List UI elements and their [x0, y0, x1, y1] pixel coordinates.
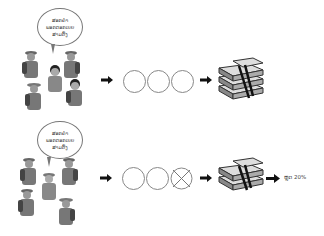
right-arrow-icon [266, 174, 280, 183]
circle [171, 70, 194, 93]
bubble-tail [47, 157, 51, 167]
bubble-line: ພອກດອກເບຍ [46, 24, 74, 31]
speech-bubble: ສອກຄຳ ພອກດອກເບຍ ສາມຕົ້ງ [37, 121, 83, 159]
bubble-line: ພອກດອກເບຍ [46, 137, 74, 144]
worker-icon [66, 78, 84, 106]
worker-icon [18, 188, 36, 216]
circle [146, 167, 169, 190]
circle [123, 70, 146, 93]
right-arrow-icon [200, 174, 212, 182]
money-stack-icon [217, 56, 267, 100]
worker-icon [46, 64, 64, 92]
crossed-circle-icon [170, 167, 193, 190]
right-arrow-icon [100, 174, 112, 182]
circle [147, 70, 170, 93]
speech-bubble: ສອກຄຳ ພອກດອກເບຍ ສາມຕົ້ງ [37, 8, 83, 46]
worker-icon [40, 172, 58, 200]
reduction-label: ຫຼຸດ 20% [284, 174, 306, 180]
worker-icon [20, 157, 38, 185]
bubble-line: ສາມຕົ້ງ [52, 31, 67, 38]
worker-icon [57, 197, 75, 225]
worker-icon [60, 157, 78, 185]
bubble-line: ສາມຕົ້ງ [52, 144, 67, 151]
bubble-line: ສອກຄຳ [52, 130, 68, 137]
right-arrow-icon [101, 76, 113, 84]
money-stack-icon [217, 156, 267, 192]
bubble-tail [51, 44, 55, 54]
worker-icon [22, 50, 40, 78]
circle [122, 167, 145, 190]
bubble-line: ສອກຄຳ [52, 17, 68, 24]
worker-icon [25, 82, 43, 110]
worker-icon [62, 50, 80, 78]
right-arrow-icon [200, 76, 212, 84]
